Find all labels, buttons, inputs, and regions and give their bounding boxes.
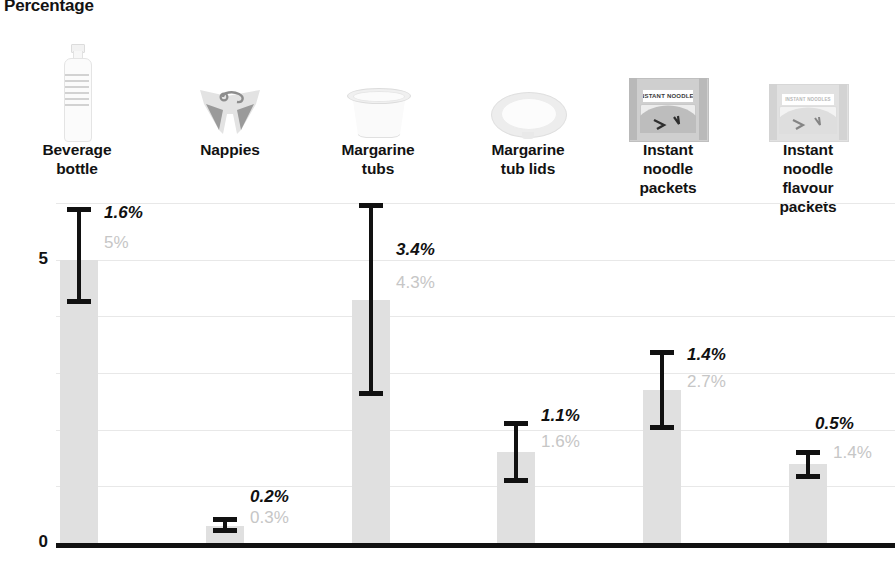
errorbar-nappies [206, 517, 244, 533]
error-label-margarine-tub-lids: 1.1% [541, 406, 580, 426]
error-label-instant-noodle-packets: 1.4% [687, 345, 726, 365]
error-label-beverage-bottle: 1.6% [104, 203, 143, 223]
error-label-margarine-tubs: 3.4% [396, 240, 435, 260]
y-axis-tick-5: 5 [8, 249, 48, 269]
y-axis-tick-0: 0 [8, 532, 48, 552]
gridline-3 [56, 373, 895, 374]
gridline-6 [56, 203, 895, 204]
error-label-instant-noodle-flavour-packets: 0.5% [815, 414, 854, 434]
errorbar-instant-noodle-flavour-packets [789, 450, 827, 479]
value-label-instant-noodle-flavour-packets: 1.4% [833, 443, 872, 463]
value-label-nappies: 0.3% [250, 508, 289, 528]
plot-area: 5 0 1.6% 5% 0.2% 0.3% 3.4% 4.3% [0, 0, 895, 574]
value-label-margarine-tubs: 4.3% [396, 273, 435, 293]
errorbar-margarine-tubs [352, 203, 390, 396]
gridline-1 [56, 486, 895, 487]
value-label-instant-noodle-packets: 2.7% [687, 372, 726, 392]
value-label-beverage-bottle: 5% [104, 233, 129, 253]
gridline-4 [56, 316, 895, 317]
gridline-2 [56, 430, 895, 431]
x-axis-baseline [56, 543, 895, 548]
errorbar-beverage-bottle [60, 207, 98, 304]
percentage-bar-chart: Percentage [0, 0, 895, 574]
error-label-nappies: 0.2% [250, 487, 289, 507]
value-label-margarine-tub-lids: 1.6% [541, 432, 580, 452]
gridline-5 [56, 260, 895, 261]
errorbar-instant-noodle-packets [643, 350, 681, 430]
errorbar-margarine-tub-lids [497, 421, 535, 483]
